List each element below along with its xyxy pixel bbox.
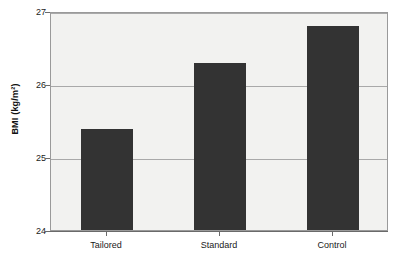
x-tick-label-control: Control <box>287 240 377 251</box>
x-tick-mark-standard <box>219 231 220 236</box>
x-tick-mark-tailored <box>106 231 107 236</box>
bar-standard <box>194 63 246 230</box>
x-tick-label-tailored: Tailored <box>61 240 151 251</box>
gridline-27 <box>51 13 387 14</box>
x-tick-mark-control <box>332 231 333 236</box>
y-tick-label-27: 27 <box>4 8 46 17</box>
bar-tailored <box>81 129 133 230</box>
plot-area <box>50 12 388 231</box>
y-tick-mark-27 <box>45 12 50 13</box>
bar-chart-figure: 27 26 25 24 BMI (kg/m²) Tailored Standar… <box>0 0 406 263</box>
bar-control <box>307 26 359 230</box>
y-tick-mark-26 <box>45 85 50 86</box>
x-tick-label-standard: Standard <box>174 240 264 251</box>
y-tick-label-24: 24 <box>4 227 46 236</box>
y-axis-tick-labels: 27 26 25 24 <box>0 0 46 263</box>
y-tick-mark-25 <box>45 158 50 159</box>
y-axis-title: BMI (kg/m²) <box>10 54 20 164</box>
